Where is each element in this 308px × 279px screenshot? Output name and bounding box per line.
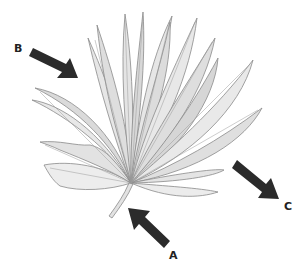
label-c: C [284,201,292,212]
arrow-a-icon [128,208,170,248]
label-b: B [14,43,22,54]
palm-leaf [32,12,262,218]
leaflet [131,183,218,196]
arrow-c-icon [232,160,279,199]
palm-leaf-diagram [0,0,308,279]
label-a: A [169,250,178,261]
arrow-b-icon [29,48,78,78]
